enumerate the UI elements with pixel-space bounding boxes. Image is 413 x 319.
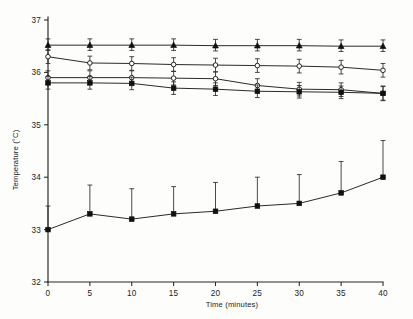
y-tick-label: 37 <box>31 16 41 25</box>
x-tick-label: 35 <box>336 289 346 298</box>
data-point-marker <box>297 89 302 94</box>
data-point-marker <box>255 204 260 209</box>
x-tick-label: 15 <box>169 289 179 298</box>
data-point-marker <box>381 175 386 180</box>
data-point-marker <box>129 61 134 66</box>
data-point-marker <box>171 86 176 91</box>
figure-background <box>0 0 413 319</box>
x-axis-title: Time (minutes) <box>206 300 259 309</box>
x-tick-label: 25 <box>253 289 263 298</box>
x-tick-label: 20 <box>211 289 221 298</box>
x-tick-label: 40 <box>378 289 388 298</box>
data-point-marker <box>129 81 134 86</box>
temperature-time-line-chart: 323334353637 0510152025303540 Temperatur… <box>0 0 413 319</box>
data-point-marker <box>213 63 218 68</box>
data-point-marker <box>213 87 218 92</box>
data-point-marker <box>339 65 344 70</box>
data-point-marker <box>171 212 176 217</box>
data-point-marker <box>255 63 260 68</box>
data-point-marker <box>339 191 344 196</box>
data-point-marker <box>297 201 302 206</box>
y-tick-label: 34 <box>31 173 41 182</box>
x-tick-label: 30 <box>294 289 304 298</box>
x-tick-label: 10 <box>127 289 137 298</box>
y-tick-label: 32 <box>31 278 41 287</box>
chart-figure: 323334353637 0510152025303540 Temperatur… <box>0 0 413 319</box>
data-point-marker <box>46 54 51 59</box>
data-point-marker <box>381 91 386 96</box>
x-tick-label: 5 <box>87 289 92 298</box>
data-point-marker <box>171 62 176 67</box>
y-tick-label: 35 <box>31 121 41 130</box>
data-point-marker <box>255 89 260 94</box>
data-point-marker <box>46 81 51 86</box>
data-point-marker <box>46 227 51 232</box>
data-point-marker <box>381 68 386 73</box>
y-tick-label: 36 <box>31 68 41 77</box>
x-tick-label: 0 <box>46 289 51 298</box>
data-point-marker <box>129 217 134 222</box>
data-point-marker <box>213 76 218 81</box>
data-point-marker <box>213 209 218 214</box>
data-point-marker <box>339 90 344 95</box>
data-point-marker <box>88 212 93 217</box>
data-point-marker <box>297 64 302 69</box>
data-point-marker <box>88 61 93 66</box>
data-point-marker <box>171 76 176 81</box>
data-point-marker <box>88 81 93 86</box>
y-tick-label: 33 <box>31 226 41 235</box>
y-axis-title: Temperature (°C) <box>11 129 20 190</box>
